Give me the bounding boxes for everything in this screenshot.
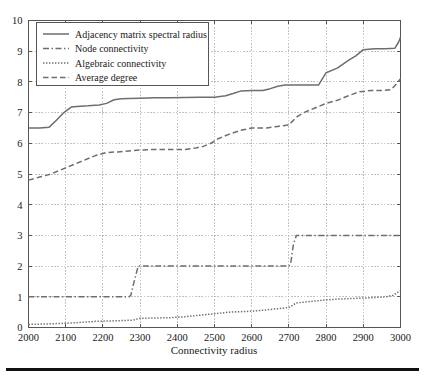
- y-tick-label: 0: [17, 322, 22, 333]
- x-tick-label: 2600: [241, 332, 262, 343]
- legend-label-3: Average degree: [75, 72, 138, 83]
- y-tick-label: 3: [17, 230, 22, 241]
- legend-label-0: Adjacency matrix spectral radius: [75, 29, 207, 40]
- y-tick-label: 10: [12, 15, 23, 26]
- y-tick-label: 1: [17, 292, 22, 303]
- legend-label-1: Node connectivity: [75, 43, 149, 54]
- y-tick-label: 9: [17, 46, 22, 57]
- x-tick-label: 2700: [278, 332, 299, 343]
- x-tick-label: 2100: [55, 332, 76, 343]
- line-chart: 2000210022002300240025002600270028002900…: [0, 0, 425, 378]
- legend-label-2: Algebraic connectivity: [75, 58, 166, 69]
- x-tick-label: 2900: [353, 332, 374, 343]
- y-tick-label: 6: [17, 138, 22, 149]
- x-tick-label: 2800: [316, 332, 337, 343]
- y-tick-label: 8: [17, 77, 22, 88]
- figure-container: 2000210022002300240025002600270028002900…: [0, 0, 425, 378]
- x-tick-label: 3000: [390, 332, 411, 343]
- x-tick-label: 2400: [167, 332, 188, 343]
- x-tick-label: 2300: [130, 332, 151, 343]
- y-tick-label: 4: [17, 200, 23, 211]
- chart-legend: Adjacency matrix spectral radiusNode con…: [37, 23, 209, 86]
- y-tick-label: 7: [17, 107, 22, 118]
- y-tick-label: 2: [17, 261, 22, 272]
- y-tick-label: 5: [17, 169, 22, 180]
- x-tick-label: 2500: [204, 332, 225, 343]
- x-tick-label: 2200: [92, 332, 113, 343]
- x-axis-title: Connectivity radius: [171, 344, 257, 356]
